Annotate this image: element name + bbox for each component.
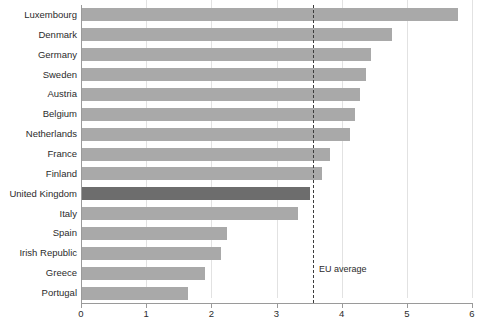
- x-axis-tick-label: 4: [339, 308, 344, 320]
- bar: [82, 207, 298, 220]
- bar-chart: EU average LuxembourgDenmarkGermanySwede…: [0, 0, 480, 324]
- x-axis-tick-label: 2: [209, 308, 214, 320]
- y-axis-tick-label: Italy: [0, 208, 77, 219]
- bar: [82, 128, 350, 141]
- gridline: [407, 0, 408, 298]
- y-axis-tick-label: Denmark: [0, 29, 77, 40]
- y-axis-tick-label: Germany: [0, 49, 77, 60]
- bar: [82, 287, 188, 300]
- y-axis-tick-label: Spain: [0, 227, 77, 238]
- y-axis-tick-label: Belgium: [0, 108, 77, 119]
- bar: [82, 227, 227, 240]
- y-axis-tick-label: Irish Republic: [0, 247, 77, 258]
- bar: [82, 247, 221, 260]
- eu-average-label: EU average: [319, 264, 367, 275]
- x-axis-tick-label: 6: [469, 308, 474, 320]
- eu-average-line: [313, 5, 314, 303]
- y-axis-tick-label: France: [0, 148, 77, 159]
- y-axis-tick-label: Greece: [0, 267, 77, 278]
- y-axis-tick-label: Portugal: [0, 287, 77, 298]
- x-axis-tick-label: 3: [274, 308, 279, 320]
- bar: [82, 267, 205, 280]
- bar: [82, 68, 366, 81]
- bar: [82, 187, 310, 200]
- bar: [82, 8, 458, 21]
- x-axis-tick-label: 5: [404, 308, 409, 320]
- bar: [82, 148, 330, 161]
- y-axis-tick-label: United Kingdom: [0, 188, 77, 199]
- y-axis-tick-label: Sweden: [0, 69, 77, 80]
- bar: [82, 28, 392, 41]
- y-axis-tick-label: Luxembourg: [0, 9, 77, 20]
- bar: [82, 48, 371, 61]
- y-axis-tick-label: Finland: [0, 168, 77, 179]
- bar: [82, 167, 322, 180]
- gridline: [342, 0, 343, 298]
- gridline: [472, 0, 473, 298]
- y-axis-tick-label: Netherlands: [0, 128, 77, 139]
- x-axis-tick-label: 1: [144, 308, 149, 320]
- bar: [82, 88, 360, 101]
- y-axis-tick-label: Austria: [0, 88, 77, 99]
- x-axis-tick-label: 0: [78, 308, 83, 320]
- y-axis-line: [81, 5, 82, 304]
